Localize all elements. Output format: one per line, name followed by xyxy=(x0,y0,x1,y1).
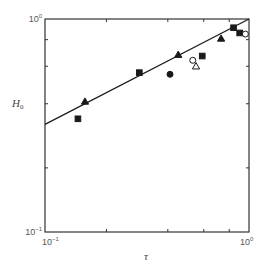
y-axis-label: H0 xyxy=(11,97,24,111)
filled-square-marker xyxy=(137,70,143,76)
data-markers xyxy=(75,25,248,122)
plot-border xyxy=(45,19,249,232)
x-axis-label: τ xyxy=(144,250,149,262)
y-tick-label-bottom: 10−1 xyxy=(25,226,43,237)
log-log-scatter-chart: 100 10−1 10−1 100 H0 τ xyxy=(0,0,266,272)
x-tick-label-left: 10−1 xyxy=(42,236,60,247)
filled-square-marker xyxy=(199,53,205,59)
filled-circle-marker xyxy=(167,71,173,77)
filled-triangle-marker xyxy=(218,35,225,41)
y-tick-label-top: 100 xyxy=(29,13,43,24)
filled-square-marker xyxy=(75,116,81,122)
power-law-fit-line xyxy=(45,19,249,124)
filled-square-marker xyxy=(237,30,243,36)
axis-ticks xyxy=(45,19,249,232)
x-tick-label-right: 100 xyxy=(240,236,254,247)
open-circle-marker xyxy=(190,57,196,63)
fit-line xyxy=(45,19,249,124)
plot-frame xyxy=(45,19,249,232)
filled-square-marker xyxy=(231,25,237,31)
open-circle-marker xyxy=(242,31,248,37)
filled-triangle-marker xyxy=(81,98,88,104)
